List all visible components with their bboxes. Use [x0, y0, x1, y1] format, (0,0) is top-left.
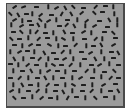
line-segment-item [69, 11, 73, 16]
line-segment-item [79, 51, 84, 53]
line-segment-item [96, 63, 101, 67]
line-segment-item [112, 69, 117, 74]
line-segment-item [45, 69, 50, 73]
line-segment-item [105, 26, 110, 28]
line-segment-item [37, 82, 39, 87]
line-segment-item [54, 58, 59, 60]
line-segment-item [12, 44, 17, 46]
line-segment-item [69, 49, 71, 54]
line-segment-item [90, 77, 95, 79]
line-segment-item [108, 61, 110, 66]
line-segment-item [100, 11, 105, 13]
line-segment-item [45, 19, 50, 23]
line-segment-item [45, 88, 47, 93]
line-segment-item [74, 96, 79, 98]
line-segment-item [64, 69, 66, 74]
line-segment-item [60, 50, 65, 55]
line-segment-item [8, 63, 13, 65]
line-segment-item [8, 77, 13, 79]
line-segment-item [20, 5, 25, 8]
line-segment-item [62, 29, 66, 34]
line-segment-item [63, 5, 67, 10]
line-segment-item [113, 37, 118, 39]
line-segment-item [91, 45, 96, 47]
line-segment-item [31, 94, 33, 99]
line-segment-item [49, 14, 54, 16]
line-segment-item [30, 57, 35, 59]
line-segment-item [97, 20, 102, 22]
line-segment-item [111, 57, 116, 59]
line-segment-item [29, 29, 31, 34]
line-segment-item [71, 5, 76, 10]
line-segment-item [72, 70, 77, 72]
line-segment-item [21, 43, 23, 48]
line-segment-item [64, 23, 69, 28]
line-segment-item [72, 56, 74, 61]
line-segment-item [93, 5, 98, 10]
line-segment-item [51, 52, 56, 54]
line-segment-item [70, 83, 75, 87]
line-segment-item [19, 30, 24, 35]
line-segment-item [72, 36, 74, 41]
line-segment-item [90, 30, 92, 35]
line-segment-item [60, 37, 65, 41]
line-segment-item [11, 18, 16, 22]
line-segment-item [38, 18, 43, 23]
line-segment-item [68, 63, 73, 68]
line-segment-item [39, 69, 41, 74]
line-segment-item [12, 56, 16, 61]
line-segment-item [8, 12, 13, 17]
line-segment-item [46, 43, 51, 47]
line-segment-item [61, 57, 66, 61]
line-segment-item [89, 89, 94, 94]
line-segment-item [108, 76, 113, 81]
line-segment-item [99, 42, 103, 47]
line-segment-item [80, 90, 85, 92]
line-segment-item [87, 51, 92, 55]
line-segment-item [55, 17, 57, 22]
line-segment-item [56, 95, 58, 100]
line-segment-item [12, 68, 14, 73]
line-segment-item [63, 45, 68, 47]
line-segment-item [100, 49, 102, 54]
line-segment-item [45, 62, 47, 67]
line-segment-item [36, 44, 41, 46]
line-segment-item [93, 68, 95, 73]
line-segment-item [54, 84, 59, 86]
line-segment-item [77, 76, 82, 80]
line-segment-item [34, 6, 39, 8]
line-segment-item [82, 38, 87, 40]
line-segment-item [42, 50, 46, 55]
line-segment-item [113, 11, 115, 16]
line-segment-item [22, 56, 24, 61]
line-segment-item [110, 43, 115, 47]
line-segment-item [36, 22, 40, 27]
line-segment-item [79, 62, 81, 67]
line-segment-item [16, 50, 21, 54]
line-segment-item [55, 70, 60, 72]
line-segment-item [31, 11, 33, 16]
line-segment-item [11, 31, 16, 33]
line-segment-item [35, 89, 40, 94]
line-segment-item [43, 32, 48, 34]
line-segment-item [103, 5, 108, 7]
line-segment-item [12, 96, 17, 101]
line-segment-item [100, 88, 102, 93]
line-segment-item [28, 84, 33, 86]
line-segment-item [116, 50, 120, 55]
line-segment-item [24, 13, 29, 15]
line-segment-item [9, 37, 14, 42]
line-segment-item [91, 24, 96, 28]
line-segment-item [59, 64, 64, 66]
line-segment-item [82, 58, 87, 60]
line-segment-item [57, 43, 59, 48]
line-segment-item [20, 82, 24, 87]
line-segment-item [72, 23, 76, 28]
line-segment-item [26, 90, 31, 92]
line-segment-item [79, 11, 84, 15]
line-segment-item [71, 88, 73, 93]
line-segment-item [85, 43, 87, 48]
line-segment-item [18, 88, 20, 93]
line-segment-item [44, 23, 46, 28]
line-segment-item [92, 11, 97, 16]
